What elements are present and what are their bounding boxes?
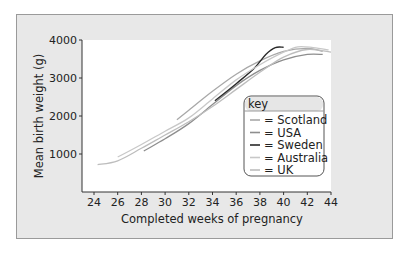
x-tick-label: 40 (277, 196, 291, 209)
x-tick-label: 34 (206, 196, 220, 209)
x-ticks: 2426283032343638404244 (87, 192, 338, 209)
y-axis-title: Mean birth weight (g) (32, 54, 46, 178)
x-tick-label: 32 (182, 196, 196, 209)
legend-item-label: = UK (264, 163, 294, 177)
x-tick-label: 42 (300, 196, 314, 209)
y-tick-label: 4000 (49, 34, 77, 47)
y-tick-label: 2000 (49, 110, 77, 123)
x-tick-label: 28 (134, 196, 148, 209)
chart-svg: 1000200030004000 2426283032343638404244 … (0, 0, 408, 254)
y-tick-label: 1000 (49, 148, 77, 161)
legend-title: key (248, 97, 268, 111)
x-tick-label: 24 (87, 196, 101, 209)
x-axis-title: Completed weeks of pregnancy (121, 212, 303, 226)
legend: key = Scotland= USA= Sweden= Australia= … (244, 96, 328, 177)
x-tick-label: 30 (158, 196, 172, 209)
x-tick-label: 38 (253, 196, 267, 209)
y-ticks: 1000200030004000 (49, 34, 82, 161)
x-tick-label: 36 (229, 196, 243, 209)
y-tick-label: 3000 (49, 72, 77, 85)
x-tick-label: 26 (111, 196, 125, 209)
x-tick-label: 44 (324, 196, 338, 209)
